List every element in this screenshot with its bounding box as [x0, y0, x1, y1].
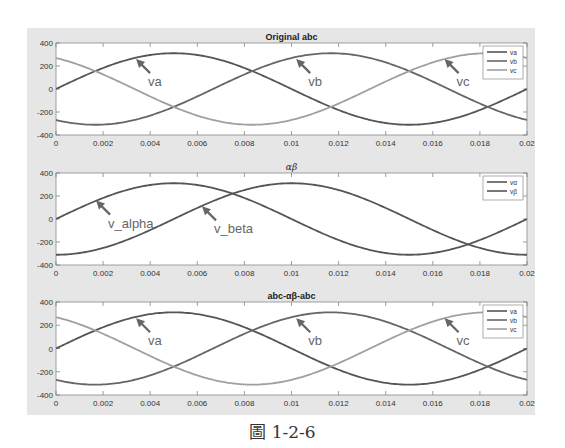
x-tick-label: 0.012: [329, 139, 350, 148]
y-tick-label: -200: [37, 238, 54, 247]
legend-box: [483, 46, 523, 79]
figure: Original abc00.0020.0040.0060.0080.010.0…: [0, 0, 565, 448]
x-tick-label: 0.01: [284, 269, 300, 278]
y-tick-label: 400: [40, 298, 54, 307]
chart-title: abc-αβ-abc: [267, 291, 315, 301]
subplot-3: abc-αβ-abc00.0020.0040.0060.0080.010.012…: [37, 291, 535, 408]
x-tick-label: 0.012: [329, 269, 350, 278]
legend-label: vβ: [510, 188, 517, 196]
x-tick-label: 0.018: [470, 139, 491, 148]
legend: vavbvc: [483, 46, 523, 79]
figure-caption: 圖 1-2-6: [0, 418, 565, 443]
legend-box: [483, 305, 523, 338]
x-tick-label: 0.008: [234, 139, 255, 148]
legend-label: vb: [510, 317, 517, 324]
x-tick-label: 0.02: [519, 269, 535, 278]
annotation-label: va: [148, 333, 163, 348]
annotation-label: vb: [308, 333, 322, 348]
annotation-label: vc: [457, 74, 471, 89]
y-tick-label: 0: [49, 345, 54, 354]
x-tick-label: 0.016: [423, 399, 444, 408]
x-tick-label: 0: [54, 139, 59, 148]
y-tick-label: -400: [37, 261, 54, 270]
x-tick-label: 0.006: [187, 269, 208, 278]
x-tick-label: 0.004: [140, 139, 161, 148]
x-tick-label: 0.01: [284, 399, 300, 408]
x-tick-label: 0: [54, 399, 59, 408]
y-tick-label: 200: [40, 62, 54, 71]
x-tick-label: 0.018: [470, 399, 491, 408]
y-tick-label: 400: [40, 169, 54, 178]
y-tick-label: 200: [40, 321, 54, 330]
y-tick-label: 0: [49, 215, 54, 224]
annotation-label: vc: [457, 333, 471, 348]
x-tick-label: 0.002: [93, 139, 114, 148]
legend: vavbvc: [483, 305, 523, 338]
y-tick-label: -400: [37, 391, 54, 400]
x-tick-label: 0.014: [376, 269, 397, 278]
legend: vαvβ: [483, 176, 523, 200]
x-tick-label: 0: [54, 269, 59, 278]
subplots: Original abc00.0020.0040.0060.0080.010.0…: [37, 32, 535, 408]
annotation-label: v_alpha: [108, 216, 154, 231]
x-tick-label: 0.012: [329, 399, 350, 408]
x-tick-label: 0.004: [140, 399, 161, 408]
subplot-1: Original abc00.0020.0040.0060.0080.010.0…: [37, 32, 535, 148]
x-tick-label: 0.006: [187, 399, 208, 408]
x-tick-label: 0.002: [93, 269, 114, 278]
y-tick-label: -400: [37, 131, 54, 140]
y-tick-label: -200: [37, 108, 54, 117]
legend-label: vc: [510, 326, 517, 333]
subplot-2: αβ00.0020.0040.0060.0080.010.0120.0140.0…: [37, 162, 535, 278]
x-tick-label: 0.014: [376, 399, 397, 408]
y-tick-label: 400: [40, 39, 54, 48]
y-tick-label: 0: [49, 85, 54, 94]
legend-label: va: [510, 308, 517, 315]
annotation-label: va: [148, 74, 163, 89]
chart-title: Original abc: [265, 32, 317, 42]
annotation-label: vb: [308, 74, 322, 89]
x-tick-label: 0.002: [93, 399, 114, 408]
x-tick-label: 0.014: [376, 139, 397, 148]
chart-title: αβ: [286, 162, 297, 172]
legend-label: vc: [510, 67, 517, 74]
x-tick-label: 0.006: [187, 139, 208, 148]
legend-label: va: [510, 49, 517, 56]
x-tick-label: 0.016: [423, 139, 444, 148]
y-tick-label: -200: [37, 368, 54, 377]
x-tick-label: 0.02: [519, 139, 535, 148]
x-tick-label: 0.01: [284, 139, 300, 148]
x-tick-label: 0.008: [234, 399, 255, 408]
x-tick-label: 0.02: [519, 399, 535, 408]
y-tick-label: 200: [40, 192, 54, 201]
x-tick-label: 0.004: [140, 269, 161, 278]
legend-label: vα: [510, 179, 517, 186]
legend-label: vb: [510, 58, 517, 65]
x-tick-label: 0.008: [234, 269, 255, 278]
x-tick-label: 0.018: [470, 269, 491, 278]
annotation-label: v_beta: [214, 221, 254, 236]
x-tick-label: 0.016: [423, 269, 444, 278]
